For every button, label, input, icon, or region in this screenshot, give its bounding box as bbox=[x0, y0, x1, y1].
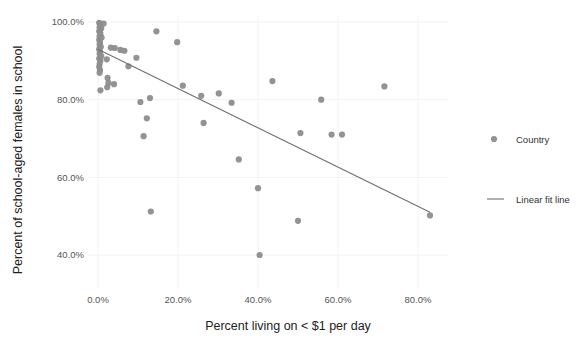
scatter-point bbox=[295, 218, 301, 224]
y-axis-title: Percent of school-aged females in school bbox=[11, 46, 25, 275]
y-tick-labels: 100.0%80.0%60.0%40.0% bbox=[52, 16, 85, 260]
scatter-point bbox=[137, 99, 143, 105]
scatter-point bbox=[121, 48, 127, 54]
scatter-chart: 0.0%20.0%40.0%60.0%80.0% 100.0%80.0%60.0… bbox=[0, 0, 577, 358]
gridlines bbox=[88, 16, 448, 288]
scatter-point bbox=[269, 78, 275, 84]
chart-canvas: 0.0%20.0%40.0%60.0%80.0% 100.0%80.0%60.0… bbox=[0, 0, 577, 358]
x-axis-title: Percent living on < $1 per day bbox=[205, 319, 371, 333]
scatter-point bbox=[97, 87, 103, 93]
scatter-point bbox=[180, 83, 186, 89]
scatter-point bbox=[339, 132, 345, 138]
scatter-point bbox=[201, 120, 207, 126]
scatter-point bbox=[255, 185, 261, 191]
scatter-point bbox=[257, 252, 263, 258]
x-tick-labels: 0.0%20.0%40.0%60.0%80.0% bbox=[87, 294, 432, 305]
scatter-point bbox=[133, 55, 139, 61]
data-markers bbox=[96, 20, 433, 258]
legend-item-linear-fit-line[interactable]: Linear fit line bbox=[516, 194, 570, 205]
scatter-point bbox=[236, 156, 242, 162]
scatter-point bbox=[229, 100, 235, 106]
y-tick-label: 40.0% bbox=[57, 249, 84, 260]
x-tick-label: 60.0% bbox=[325, 294, 352, 305]
scatter-point bbox=[427, 212, 433, 218]
scatter-point bbox=[329, 132, 335, 138]
scatter-point bbox=[104, 56, 110, 62]
scatter-point bbox=[148, 208, 154, 214]
x-tick-label: 20.0% bbox=[165, 294, 192, 305]
legend-item-country[interactable]: Country bbox=[516, 134, 550, 145]
y-tick-label: 60.0% bbox=[57, 172, 84, 183]
x-tick-label: 40.0% bbox=[245, 294, 272, 305]
scatter-point bbox=[216, 90, 222, 96]
scatter-point bbox=[104, 84, 110, 90]
x-tick-label: 80.0% bbox=[405, 294, 432, 305]
scatter-point bbox=[174, 39, 180, 45]
scatter-point bbox=[144, 115, 150, 121]
scatter-point bbox=[112, 45, 118, 51]
y-tick-label: 80.0% bbox=[57, 94, 84, 105]
scatter-point bbox=[147, 95, 153, 101]
scatter-point bbox=[141, 133, 147, 139]
scatter-point bbox=[297, 130, 303, 136]
scatter-point bbox=[381, 83, 387, 89]
scatter-point bbox=[97, 70, 103, 76]
fit-line-path bbox=[98, 49, 430, 212]
legend: Country Linear fit line bbox=[487, 134, 570, 205]
scatter-point bbox=[198, 93, 204, 99]
linear-fit-line bbox=[98, 49, 430, 212]
scatter-point bbox=[318, 97, 324, 103]
y-tick-label: 100.0% bbox=[52, 16, 85, 27]
legend-country-marker bbox=[491, 136, 497, 142]
x-tick-label: 0.0% bbox=[87, 294, 109, 305]
scatter-point bbox=[111, 81, 117, 87]
scatter-point bbox=[153, 28, 159, 34]
